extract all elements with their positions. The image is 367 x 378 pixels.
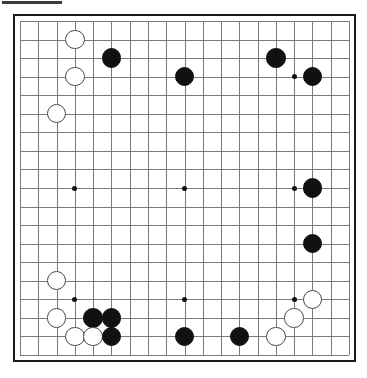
stone-white[interactable] [284, 308, 303, 327]
board-grid [15, 16, 354, 360]
stone-white[interactable] [65, 30, 84, 49]
grid-line-vertical [148, 21, 149, 355]
grid-line-vertical [239, 21, 240, 355]
go-board[interactable] [13, 14, 356, 362]
grid-line-horizontal [20, 40, 349, 41]
grid-line-vertical [93, 21, 94, 355]
grid-line-horizontal [20, 262, 349, 263]
grid-line-vertical [166, 21, 167, 355]
star-point [182, 186, 187, 191]
stone-white[interactable] [303, 290, 322, 309]
stone-black[interactable] [175, 327, 194, 346]
grid-line-horizontal [20, 336, 349, 337]
grid-line-vertical [276, 21, 277, 355]
grid-line-vertical [331, 21, 332, 355]
stone-black[interactable] [303, 234, 322, 253]
grid-line-vertical [20, 21, 21, 355]
grid-line-horizontal [20, 299, 349, 300]
star-point [292, 74, 297, 79]
stone-black[interactable] [102, 48, 121, 67]
grid-line-horizontal [20, 188, 349, 189]
grid-line-horizontal [20, 281, 349, 282]
stone-black[interactable] [83, 308, 102, 327]
star-point [72, 186, 77, 191]
stone-white[interactable] [65, 67, 84, 86]
stone-black[interactable] [303, 178, 322, 197]
stone-white[interactable] [47, 308, 66, 327]
grid-line-horizontal [20, 21, 349, 22]
grid-line-horizontal [20, 355, 349, 356]
grid-line-horizontal [20, 132, 349, 133]
grid-line-vertical [221, 21, 222, 355]
star-point [182, 297, 187, 302]
grid-line-horizontal [20, 114, 349, 115]
stone-black[interactable] [175, 67, 194, 86]
star-point [182, 74, 187, 79]
page-root [0, 0, 367, 378]
stone-white[interactable] [47, 104, 66, 123]
grid-line-vertical [203, 21, 204, 355]
stone-black[interactable] [230, 327, 249, 346]
grid-line-vertical [111, 21, 112, 355]
grid-line-vertical [258, 21, 259, 355]
grid-line-vertical [75, 21, 76, 355]
stone-white[interactable] [65, 327, 84, 346]
grid-line-horizontal [20, 151, 349, 152]
grid-line-horizontal [20, 318, 349, 319]
stones-layer [15, 16, 354, 360]
grid-line-horizontal [20, 225, 349, 226]
grid-line-horizontal [20, 169, 349, 170]
header-rule [2, 1, 62, 4]
star-point [72, 297, 77, 302]
grid-line-horizontal [20, 207, 349, 208]
grid-line-horizontal [20, 95, 349, 96]
stone-white[interactable] [83, 327, 102, 346]
grid-line-vertical [130, 21, 131, 355]
grid-line-vertical [312, 21, 313, 355]
stone-black[interactable] [266, 48, 285, 67]
grid-line-vertical [185, 21, 186, 355]
stone-white[interactable] [47, 271, 66, 290]
grid-line-vertical [38, 21, 39, 355]
grid-line-horizontal [20, 244, 349, 245]
grid-line-horizontal [20, 77, 349, 78]
grid-line-vertical [349, 21, 350, 355]
stone-black[interactable] [303, 67, 322, 86]
stone-black[interactable] [102, 327, 121, 346]
grid-line-horizontal [20, 58, 349, 59]
grid-line-vertical [57, 21, 58, 355]
stone-black[interactable] [102, 308, 121, 327]
star-point [72, 74, 77, 79]
grid-line-vertical [294, 21, 295, 355]
star-point [292, 186, 297, 191]
star-point [292, 297, 297, 302]
star-points-layer [15, 16, 354, 360]
stone-white[interactable] [266, 327, 285, 346]
